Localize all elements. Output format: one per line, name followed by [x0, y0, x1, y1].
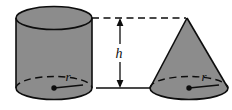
- cylinder-top-ellipse: [16, 7, 92, 30]
- height-arrowhead-down: [117, 80, 124, 88]
- cylinder-shape: r: [16, 7, 92, 100]
- figure-canvas: r r: [0, 0, 232, 110]
- height-arrowhead-up: [117, 18, 124, 26]
- cone-shape: r: [150, 18, 228, 99]
- height-label: h: [116, 46, 123, 61]
- geometry-figure: r r: [0, 0, 232, 110]
